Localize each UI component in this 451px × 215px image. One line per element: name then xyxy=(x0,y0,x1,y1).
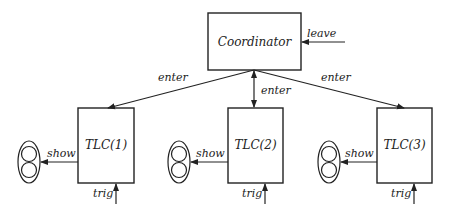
tlc1-node: TLC(1) xyxy=(78,108,134,183)
tlc3-node: TLC(3) xyxy=(377,108,432,183)
trig-edge-3: trig xyxy=(391,184,414,204)
traffic-light-2-icon xyxy=(168,141,190,183)
coordinator-label: Coordinator xyxy=(218,35,293,49)
trig-edge-1: trig xyxy=(93,184,116,204)
trig-label-3: trig xyxy=(391,187,411,200)
tlc2-node: TLC(2) xyxy=(228,108,283,183)
tlc2-label: TLC(2) xyxy=(234,138,276,152)
enter-label-2: enter xyxy=(261,84,292,97)
leave-edge: leave xyxy=(302,27,345,42)
coordinator-node: Coordinator xyxy=(208,13,301,70)
traffic-light-1-icon xyxy=(18,141,40,183)
show-edge-1: show xyxy=(41,147,78,162)
trig-label-2: trig xyxy=(242,187,262,200)
enter-edge-1: enter xyxy=(108,70,254,108)
tlc1-label: TLC(1) xyxy=(85,138,127,152)
show-edge-3: show xyxy=(341,147,377,162)
trig-label-1: trig xyxy=(93,187,113,200)
leave-label: leave xyxy=(307,27,337,40)
show-edge-2: show xyxy=(191,147,228,162)
traffic-light-3-icon xyxy=(318,141,340,183)
enter-label-3: enter xyxy=(321,71,352,84)
enter-edge-2: enter xyxy=(254,71,292,107)
show-label-2: show xyxy=(196,147,225,160)
trig-edge-2: trig xyxy=(242,184,265,204)
show-label-1: show xyxy=(47,147,76,160)
show-label-3: show xyxy=(345,147,374,160)
tlc3-label: TLC(3) xyxy=(383,138,425,152)
diagram-svg: Coordinator leave enter enter enter TLC(… xyxy=(0,0,451,215)
enter-label-1: enter xyxy=(158,71,189,84)
diagram-canvas: Coordinator leave enter enter enter TLC(… xyxy=(0,0,451,215)
